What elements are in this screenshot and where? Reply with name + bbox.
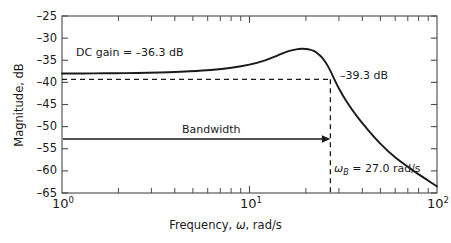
y-axis-major-ticks [62,16,68,193]
omega-symbol: ω [236,218,246,232]
y-tick-label-3: –40 [27,77,57,89]
cutoff-db-annotation: –39.3 dB [340,70,388,81]
x-tick-base-1: 10 [240,196,257,211]
bandwidth-annotation: Bandwidth [182,124,241,135]
omega-b-symbol: ω [334,162,343,175]
x-tick-label-1: 101 [240,197,262,210]
y-tick-label-7: –60 [27,165,57,177]
bandwidth-value-annotation: ωB = 27.0 rad/s [334,163,421,177]
bode-magnitude-figure: –25 –30 –35 –40 –45 –50 –55 –60 –65 100 … [0,0,451,243]
dc-gain-annotation: DC gain = –36.3 dB [76,47,184,58]
y-axis-major-ticks-right [431,16,437,193]
x-axis-title-post: , rad/s [246,218,282,232]
x-tick-base-2: 10 [427,196,444,211]
y-tick-label-4: –45 [27,99,57,111]
x-axis-title-pre: Frequency, [169,218,236,232]
y-tick-label-1: –30 [27,33,57,45]
omega-b-value: = 27.0 rad/s [349,162,421,175]
y-tick-label-0: –25 [27,11,57,23]
x-axis-title: Frequency, ω, rad/s [0,218,451,232]
x-axis-minor-ticks-top [118,16,428,21]
x-tick-exp-0: 0 [69,195,74,205]
x-tick-label-0: 100 [52,197,74,210]
x-axis-minor-ticks-bottom [118,188,428,193]
bandwidth-arrow [63,135,330,143]
y-axis-title: Magnitude, dB [12,50,26,160]
x-tick-exp-2: 2 [444,195,449,205]
y-tick-label-2: –35 [27,55,57,67]
y-tick-label-6: –55 [27,143,57,155]
x-tick-exp-1: 1 [257,195,262,205]
x-tick-label-2: 102 [427,197,449,210]
y-tick-label-5: –50 [27,121,57,133]
x-tick-base-0: 10 [52,196,69,211]
